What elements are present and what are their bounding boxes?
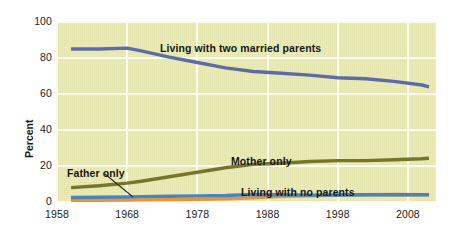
annotation-living-with-no-parents: Living with no parents <box>241 186 355 198</box>
x-tick-1998: 1998 <box>318 208 358 220</box>
y-tick-80: 80 <box>24 51 52 63</box>
x-tick-2008: 2008 <box>388 208 428 220</box>
annotation-living-with-two-married-parents: Living with two married parents <box>160 42 321 54</box>
x-tick-1988: 1988 <box>248 208 288 220</box>
y-tick-20: 20 <box>24 159 52 171</box>
annotation-father-only: Father only <box>67 167 125 179</box>
y-tick-0: 0 <box>24 195 52 207</box>
y-axis-title-wrap: Percent <box>11 96 25 166</box>
y-tick-60: 60 <box>24 87 52 99</box>
annotation-mother-only: Mother only <box>231 155 292 167</box>
x-tick-1958: 1958 <box>37 208 77 220</box>
y-axis-title: Percent <box>23 119 35 158</box>
line-chart: 020406080100 Percent 1958196819781988199… <box>0 0 458 241</box>
x-tick-1968: 1968 <box>107 208 147 220</box>
x-tick-1978: 1978 <box>177 208 217 220</box>
y-tick-100: 100 <box>24 15 52 27</box>
